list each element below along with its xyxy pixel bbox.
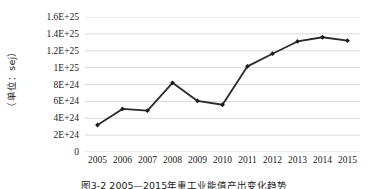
y-tick-label: 6E+24 (54, 96, 79, 106)
y-tick-label: 1.4E+25 (46, 29, 79, 39)
y-tick-label: 1.2E+25 (46, 46, 79, 56)
x-tick-label: 2012 (263, 154, 282, 166)
y-tick-label: 4E+24 (54, 113, 79, 123)
x-axis-tick-labels: 2005200620072008200920102011201220132014… (85, 154, 360, 168)
y-axis-tick-labels: 02E+244E+246E+248E+241E+251.2E+251.4E+25… (20, 0, 82, 189)
y-tick-label: 2E+24 (54, 130, 79, 140)
x-tick-label: 2015 (338, 154, 357, 166)
x-tick-label: 2006 (113, 154, 132, 166)
data-series (85, 17, 360, 152)
y-tick-label: 1.6E+25 (46, 12, 79, 22)
x-tick-label: 2014 (313, 154, 332, 166)
x-tick-label: 2007 (138, 154, 157, 166)
x-tick-label: 2008 (163, 154, 182, 166)
figure-caption: 图3-2 2005—2015年重工业能值产出变化趋势 (0, 180, 368, 189)
chart-figure: （单位：sej） 02E+244E+246E+248E+241E+251.2E+… (0, 0, 368, 189)
x-tick-label: 2011 (238, 154, 257, 166)
y-axis-title: （单位：sej） (2, 36, 20, 122)
y-tick-label: 8E+24 (54, 80, 79, 90)
y-axis-title-label: （单位：sej） (4, 46, 18, 111)
x-tick-label: 2009 (188, 154, 207, 166)
x-tick-label: 2010 (213, 154, 232, 166)
x-tick-label: 2013 (288, 154, 307, 166)
y-tick-label: 1E+25 (54, 63, 79, 73)
y-tick-label: 0 (74, 147, 79, 157)
x-tick-label: 2005 (88, 154, 107, 166)
plot-area (85, 17, 360, 152)
